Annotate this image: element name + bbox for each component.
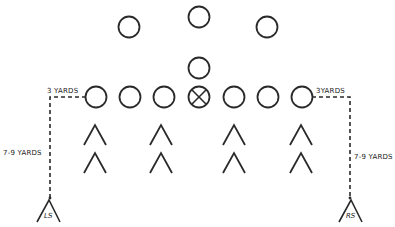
left-horizontal-label: 3 YARDS bbox=[47, 87, 79, 95]
lineman-icon bbox=[224, 87, 245, 108]
center-player-icon bbox=[189, 87, 210, 108]
left-alignment-path bbox=[50, 97, 86, 198]
defender-chevron-icon bbox=[84, 125, 106, 145]
left-arrow-tip bbox=[49, 197, 52, 200]
right-arrow-tip bbox=[349, 197, 352, 200]
lineman-icon bbox=[292, 87, 313, 108]
lineman-icon bbox=[154, 87, 175, 108]
back-player-icon bbox=[189, 58, 210, 79]
svg-text:LS: LS bbox=[44, 212, 53, 220]
defender-chevron-icon bbox=[84, 153, 106, 173]
offensive-backs bbox=[119, 7, 278, 79]
formation-diagram: LSRS 3 YARDS 7-9 YARDS 3YARDS 7-9 YARDS bbox=[0, 0, 395, 227]
defender-chevron-icon bbox=[290, 125, 312, 145]
defender-chevron-icon bbox=[150, 125, 172, 145]
back-player-icon bbox=[189, 7, 210, 28]
offensive-line bbox=[86, 87, 313, 108]
defender-chevron-icon bbox=[150, 153, 172, 173]
back-player-icon bbox=[119, 17, 140, 38]
defender-chevron-icon bbox=[223, 153, 245, 173]
safety-rs-icon: RS bbox=[339, 200, 362, 222]
left-vertical-label: 7-9 YARDS bbox=[3, 149, 42, 157]
lineman-icon bbox=[120, 87, 141, 108]
right-alignment-path bbox=[312, 97, 350, 198]
right-horizontal-label: 3YARDS bbox=[316, 87, 345, 95]
defender-chevron-icon bbox=[223, 125, 245, 145]
safety-ls-icon: LS bbox=[37, 200, 60, 222]
safeties: LSRS bbox=[37, 200, 362, 222]
lineman-icon bbox=[86, 87, 107, 108]
lineman-icon bbox=[258, 87, 279, 108]
defender-chevron-icon bbox=[290, 153, 312, 173]
right-vertical-label: 7-9 YARDS bbox=[354, 153, 393, 161]
defensive-players bbox=[84, 125, 312, 173]
svg-text:RS: RS bbox=[346, 212, 356, 220]
back-player-icon bbox=[257, 17, 278, 38]
